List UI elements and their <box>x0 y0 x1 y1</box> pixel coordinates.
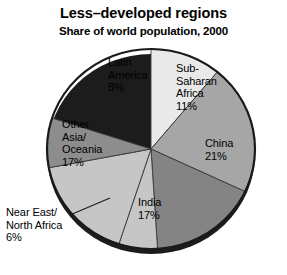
pie-chart-figure: Less–developed regions Share of world po… <box>0 0 287 275</box>
slice-label-china: China 21% <box>205 137 257 162</box>
slice-label-india: India 17% <box>138 196 184 221</box>
slice-label-latin-america: Latin America 8% <box>108 56 166 94</box>
slice-label-near-east-north-africa: Near East/ North Africa 6% <box>6 206 110 244</box>
slice-label-other-asia-oceania: Other Asia/ Oceania 17% <box>62 118 120 168</box>
slice-label-sub-saharan-africa: Sub- Saharan Africa 11% <box>176 62 232 112</box>
